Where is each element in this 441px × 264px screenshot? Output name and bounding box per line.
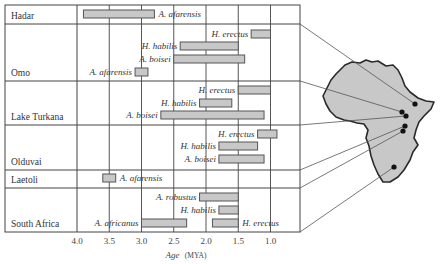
x-axis-title: Age (MYA)	[165, 250, 207, 260]
species-range-bar: A. afarensis	[103, 173, 163, 183]
species-label: A. boisei	[138, 54, 171, 64]
species-label: A. boisei	[183, 154, 216, 164]
site-marker	[391, 164, 396, 169]
x-axis-title-unit: (MYA)	[185, 251, 207, 260]
species-range-bar: A. robustus	[155, 192, 238, 202]
species-range-bar: A. boisei	[125, 110, 264, 120]
species-label: A. robustus	[155, 192, 197, 202]
species-range-bar: H. erectus	[210, 29, 270, 39]
x-axis-title-main: Age	[165, 250, 180, 260]
species-label: H. habilis	[179, 205, 216, 215]
range-bar	[219, 155, 264, 163]
range-bar	[258, 130, 277, 138]
species-label: H. erectus	[217, 129, 255, 139]
species-label: A. afarensis	[88, 67, 132, 77]
species-range-bar: H. erectus	[217, 129, 277, 139]
range-bar	[219, 206, 238, 214]
hominid-site-chart: HadarOmoLake TurkanaOlduvaiLaetoliSouth …	[0, 0, 441, 264]
site-label-olduvai: Olduvai	[11, 157, 42, 167]
range-bar	[135, 68, 148, 76]
species-range-bar: A. boisei	[183, 154, 264, 164]
range-bar	[200, 99, 232, 107]
species-label: H. habilis	[141, 41, 178, 51]
range-bar	[83, 10, 154, 18]
site-label-lake-turkana: Lake Turkana	[11, 112, 64, 122]
x-axis-ticks: 4.03.53.02.52.01.51.0	[71, 236, 276, 246]
species-label: A. boisei	[125, 110, 158, 120]
africa-inset-map	[300, 24, 434, 232]
site-marker	[399, 109, 404, 114]
site-marker	[403, 113, 408, 118]
species-range-bar: A. africanus	[94, 218, 187, 228]
species-range-bar: H. habilis	[179, 141, 257, 151]
range-bar	[251, 30, 270, 38]
site-label-omo: Omo	[11, 68, 30, 78]
range-bar	[212, 219, 238, 227]
range-bar	[174, 55, 245, 63]
site-marker	[412, 101, 417, 106]
species-label: A. africanus	[94, 218, 139, 228]
range-bar	[103, 174, 116, 182]
range-bar	[142, 219, 187, 227]
site-label-laetoli: Laetoli	[11, 175, 38, 185]
site-marker	[402, 123, 407, 128]
species-label: H. habilis	[179, 141, 216, 151]
x-tick-label: 1.5	[233, 236, 245, 246]
species-label: H. erectus	[241, 218, 279, 228]
species-range-bar: H. habilis	[160, 98, 232, 108]
species-label: A. afarensis	[157, 9, 201, 19]
species-range-bar: A. boisei	[138, 54, 244, 64]
range-bar	[180, 42, 238, 50]
site-marker	[400, 128, 405, 133]
species-label: H. habilis	[160, 98, 197, 108]
species-range-bar: A. afarensis	[88, 67, 148, 77]
species-label: H. erectus	[198, 85, 236, 95]
species-range-bar: H. erectus	[198, 85, 271, 95]
x-tick-label: 2.5	[168, 236, 180, 246]
species-label: H. erectus	[210, 29, 248, 39]
x-tick-label: 1.0	[265, 236, 277, 246]
range-bar	[200, 193, 239, 201]
species-range-bar: A. afarensis	[83, 9, 201, 19]
site-label-south-africa: South Africa	[11, 219, 60, 229]
connector-line	[300, 167, 394, 232]
range-bar	[219, 142, 258, 150]
x-tick-label: 2.0	[200, 236, 212, 246]
species-range-bar: H. erectus	[212, 218, 279, 228]
x-tick-label: 3.0	[136, 236, 148, 246]
species-range-bar: H. habilis	[179, 205, 238, 215]
site-label-hadar: Hadar	[11, 11, 35, 21]
range-bar	[238, 86, 270, 94]
x-tick-label: 4.0	[71, 236, 83, 246]
x-tick-label: 3.5	[104, 236, 116, 246]
species-label: A. afarensis	[119, 173, 163, 183]
range-bar	[161, 111, 264, 119]
species-bars: A. afarensisH. erectusH. habilisA. boise…	[83, 9, 279, 228]
species-range-bar: H. habilis	[141, 41, 239, 51]
